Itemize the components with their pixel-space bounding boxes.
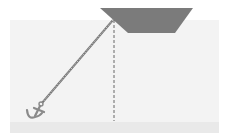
- anchor-icon: [27, 102, 44, 118]
- anchor-diagram: [0, 0, 226, 138]
